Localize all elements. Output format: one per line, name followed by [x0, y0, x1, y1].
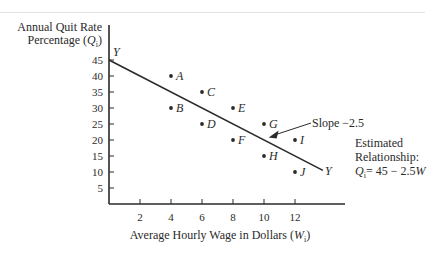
x-axis-title: Average Hourly Wage in Dollars (Wi): [120, 228, 320, 244]
regression-line: YY: [109, 45, 333, 178]
axis-ticks: 5101520253035404524681012: [92, 54, 301, 223]
data-point: F: [231, 133, 246, 147]
point-label: F: [237, 133, 246, 147]
arrow-head: [269, 130, 279, 138]
rel-line1: Estimated: [355, 136, 425, 150]
point-marker: [262, 122, 266, 126]
y-tick-label: 5: [98, 182, 104, 194]
y-axis-title-prefix: Percentage (: [27, 33, 87, 47]
rel-equation: Qi= 45 − 2.5W: [355, 164, 425, 183]
point-marker: [293, 170, 297, 174]
x-axis-title-prefix: Average Hourly Wage in Dollars (: [130, 228, 294, 242]
x-tick-label: 8: [230, 211, 236, 223]
point-marker: [262, 154, 266, 158]
y-tick-label: 10: [92, 166, 104, 178]
data-point: E: [231, 101, 246, 115]
point-marker: [200, 122, 204, 126]
data-points: ABCDEFGHIJ: [169, 69, 306, 179]
point-label: D: [206, 117, 216, 131]
y-tick-label: 15: [92, 150, 104, 162]
axes: [109, 25, 345, 204]
point-label: H: [268, 149, 279, 163]
rel-w-var: W: [415, 164, 425, 178]
x-tick-label: 10: [259, 211, 271, 223]
x-axis-title-suffix: ): [306, 228, 310, 242]
line-label-end: Y: [325, 164, 333, 178]
point-marker: [169, 74, 173, 78]
regression-line-path: [109, 60, 323, 170]
y-axis-var: Q: [87, 33, 96, 47]
rel-line2: Relationship:: [355, 150, 425, 164]
y-tick-label: 40: [92, 70, 104, 82]
slope-annotation: Slope −2.5: [312, 116, 364, 131]
data-point: I: [293, 133, 305, 147]
point-label: B: [176, 101, 184, 115]
data-point: B: [169, 101, 184, 115]
point-label: A: [175, 69, 184, 83]
data-point: D: [200, 117, 216, 131]
y-axis-title-line2: Percentage (Qi): [17, 34, 102, 51]
rel-q-var: Q: [355, 164, 364, 178]
arrow-shaft: [275, 123, 311, 135]
line-label-start: Y: [113, 45, 121, 59]
point-label: E: [237, 101, 246, 115]
y-axis-title-suffix: ): [98, 33, 102, 47]
y-tick-label: 25: [92, 118, 104, 130]
point-marker: [231, 138, 235, 142]
estimated-relationship: Estimated Relationship: Qi= 45 − 2.5W: [355, 136, 425, 183]
data-point: C: [200, 85, 216, 99]
point-marker: [231, 106, 235, 110]
y-tick-label: 45: [92, 54, 104, 66]
point-label: J: [300, 165, 306, 179]
point-label: G: [269, 117, 278, 131]
point-label: I: [299, 133, 305, 147]
data-point: J: [293, 165, 306, 179]
x-tick-label: 6: [199, 211, 205, 223]
y-axis-title: Annual Quit Rate Percentage (Qi): [17, 21, 102, 51]
point-label: C: [207, 85, 216, 99]
data-point: H: [262, 149, 279, 163]
point-marker: [169, 106, 173, 110]
point-marker: [200, 90, 204, 94]
y-tick-label: 30: [92, 102, 104, 114]
rel-eq-text: = 45 − 2.5: [366, 164, 416, 178]
x-tick-label: 4: [168, 211, 174, 223]
point-marker: [293, 138, 297, 142]
data-point: G: [262, 117, 278, 131]
x-tick-label: 2: [137, 211, 143, 223]
y-tick-label: 35: [92, 86, 104, 98]
x-axis-var: W: [294, 228, 304, 242]
data-point: A: [169, 69, 184, 83]
y-tick-label: 20: [92, 134, 104, 146]
x-tick-label: 12: [290, 211, 301, 223]
